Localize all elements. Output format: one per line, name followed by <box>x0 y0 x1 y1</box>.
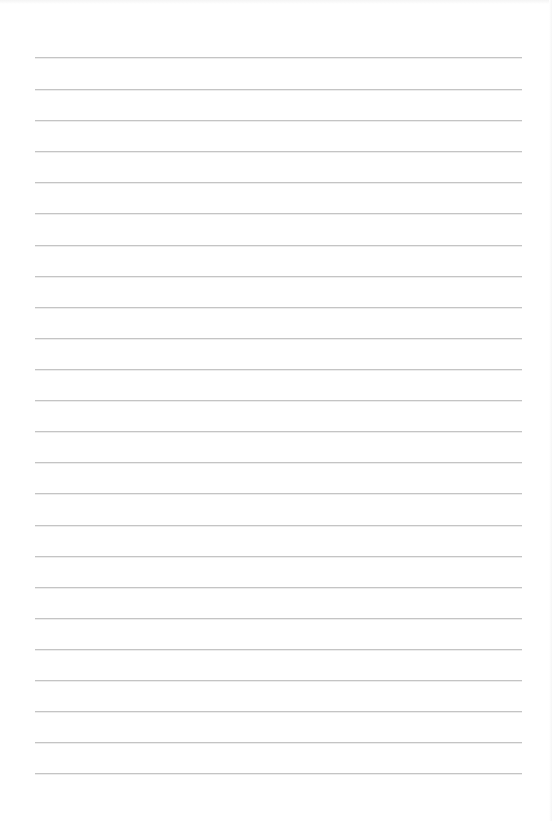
ruled-line <box>35 369 522 370</box>
ruled-line <box>35 400 522 401</box>
ruled-line <box>35 213 522 214</box>
ruled-line <box>35 649 522 650</box>
ruled-line <box>35 587 522 588</box>
ruled-line <box>35 742 522 743</box>
ruled-line <box>35 151 522 152</box>
ruled-line <box>35 182 522 183</box>
ruled-line <box>35 556 522 557</box>
ruled-line <box>35 57 522 58</box>
ruled-line <box>35 525 522 526</box>
ruled-line <box>35 245 522 246</box>
ruled-lines-container <box>35 0 522 821</box>
ruled-line <box>35 276 522 277</box>
ruled-line <box>35 89 522 90</box>
ruled-line <box>35 618 522 619</box>
ruled-line <box>35 680 522 681</box>
ruled-line <box>35 711 522 712</box>
ruled-line <box>35 493 522 494</box>
ruled-line <box>35 307 522 308</box>
ruled-line <box>35 431 522 432</box>
lined-paper-page <box>0 0 552 821</box>
ruled-line <box>35 120 522 121</box>
ruled-line <box>35 462 522 463</box>
ruled-line <box>35 338 522 339</box>
ruled-line <box>35 773 522 774</box>
